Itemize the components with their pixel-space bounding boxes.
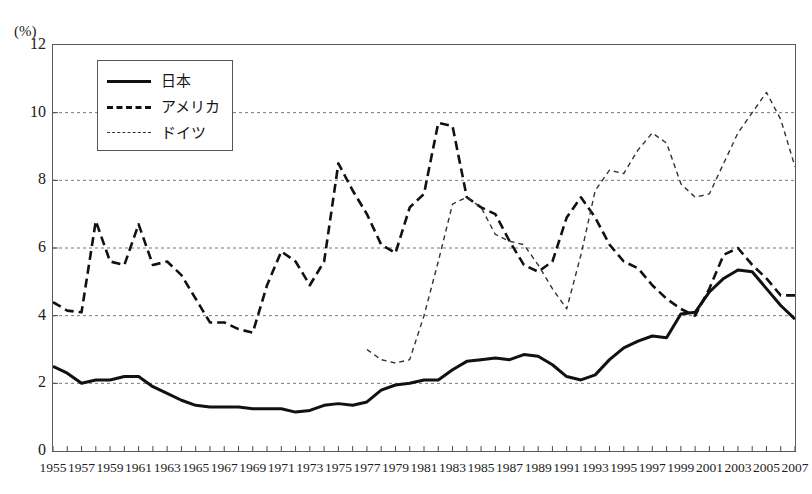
x-axis-tick-labels: 1955195719591961196319651967196919711973… [0, 461, 812, 485]
legend-key-solid-line-icon [107, 75, 153, 87]
legend-key-dotted-line-icon [107, 127, 153, 139]
series-line-2 [367, 92, 795, 363]
y-tick-label: 4 [6, 307, 46, 323]
x-tick-label: 1979 [382, 461, 409, 475]
x-tick-label: 1961 [125, 461, 152, 475]
x-tick-label: 1991 [553, 461, 580, 475]
x-tick-label: 1997 [639, 461, 666, 475]
x-tick-label: 1983 [439, 461, 466, 475]
y-tick-label: 8 [6, 171, 46, 187]
legend-item-usa: アメリカ [98, 94, 232, 120]
x-tick-label: 1963 [154, 461, 181, 475]
series-line-1 [53, 123, 795, 333]
y-tick-label: 10 [6, 104, 46, 120]
y-tick-label: 0 [6, 442, 46, 458]
x-tick-label: 2007 [782, 461, 809, 475]
legend-item-japan: 日本 [98, 68, 232, 94]
y-axis-tick-labels: 024681012 [0, 0, 46, 494]
legend-key-dashed-line-icon [107, 101, 153, 113]
x-tick-label: 1967 [211, 461, 238, 475]
x-tick-label: 1999 [667, 461, 694, 475]
x-tick-label: 1987 [496, 461, 523, 475]
x-tick-label: 1969 [239, 461, 266, 475]
legend-item-germany: ドイツ [98, 120, 232, 146]
x-tick-label: 2005 [753, 461, 780, 475]
x-tick-label: 1977 [353, 461, 380, 475]
x-tick-label: 1989 [525, 461, 552, 475]
x-tick-label: 2001 [696, 461, 723, 475]
x-tick-label: 1993 [582, 461, 609, 475]
x-tick-label: 1971 [268, 461, 295, 475]
legend-label-germany: ドイツ [153, 126, 206, 141]
y-tick-label: 2 [6, 374, 46, 390]
x-tick-label: 1975 [325, 461, 352, 475]
x-tick-label: 1981 [411, 461, 438, 475]
x-tick-label: 1965 [182, 461, 209, 475]
series-line-0 [53, 270, 795, 412]
legend-label-usa: アメリカ [153, 100, 220, 115]
x-tick-label: 1957 [68, 461, 95, 475]
y-tick-label: 6 [6, 239, 46, 255]
legend: 日本 アメリカ ドイツ [97, 60, 233, 151]
x-tick-label: 1973 [296, 461, 323, 475]
x-tick-label: 1955 [40, 461, 67, 475]
x-tick-label: 1995 [610, 461, 637, 475]
x-tick-label: 2003 [724, 461, 751, 475]
faint-cropped-title [320, 0, 520, 10]
x-tick-label: 1985 [468, 461, 495, 475]
x-tick-label: 1959 [97, 461, 124, 475]
y-tick-label: 12 [6, 36, 46, 52]
unemployment-rate-line-chart: (%) 024681012 19551957195919611963196519… [0, 0, 812, 494]
legend-label-japan: 日本 [153, 74, 191, 89]
